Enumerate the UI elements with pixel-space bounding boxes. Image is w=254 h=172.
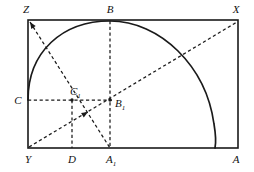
point-label-Z: Z bbox=[23, 3, 30, 15]
vertex-dot-B1 bbox=[108, 98, 111, 101]
point-label-C: C bbox=[14, 94, 22, 106]
point-label-subscript-A1: 1 bbox=[113, 160, 117, 168]
vertex-dot-C1 bbox=[70, 98, 73, 101]
point-label-B: B bbox=[107, 3, 114, 15]
point-label-D: D bbox=[67, 153, 76, 165]
point-label-A: A bbox=[232, 153, 240, 165]
diagram-root: ZBXCC1B1YDA1A bbox=[0, 0, 254, 172]
geometry-figure: ZBXCC1B1YDA1A bbox=[0, 0, 254, 172]
point-label-subscript-C1: 1 bbox=[77, 92, 81, 100]
point-label-subscript-B1: 1 bbox=[122, 104, 126, 112]
point-label-X: X bbox=[232, 3, 241, 15]
